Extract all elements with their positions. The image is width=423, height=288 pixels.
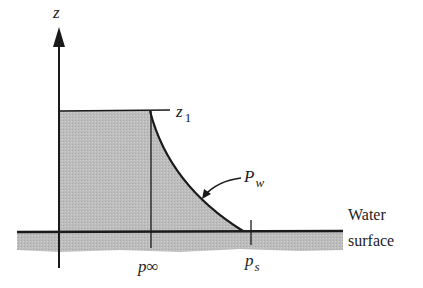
water-surface-line (17, 231, 343, 232)
ps-label: ps (244, 251, 260, 274)
surface-label: surface (348, 232, 394, 249)
p-inf-label: p∞ (137, 257, 159, 276)
z1-level-line (59, 110, 170, 111)
pw-label: Pw (243, 167, 264, 190)
water-label: Water (348, 206, 386, 223)
pressure-diagram: z z1 Pw p∞ ps Water surface (0, 0, 423, 288)
water-band (17, 232, 343, 252)
z-axis-arrow-icon (53, 27, 65, 47)
z1-label: z1 (175, 102, 191, 125)
z-axis-label: z (52, 3, 60, 22)
